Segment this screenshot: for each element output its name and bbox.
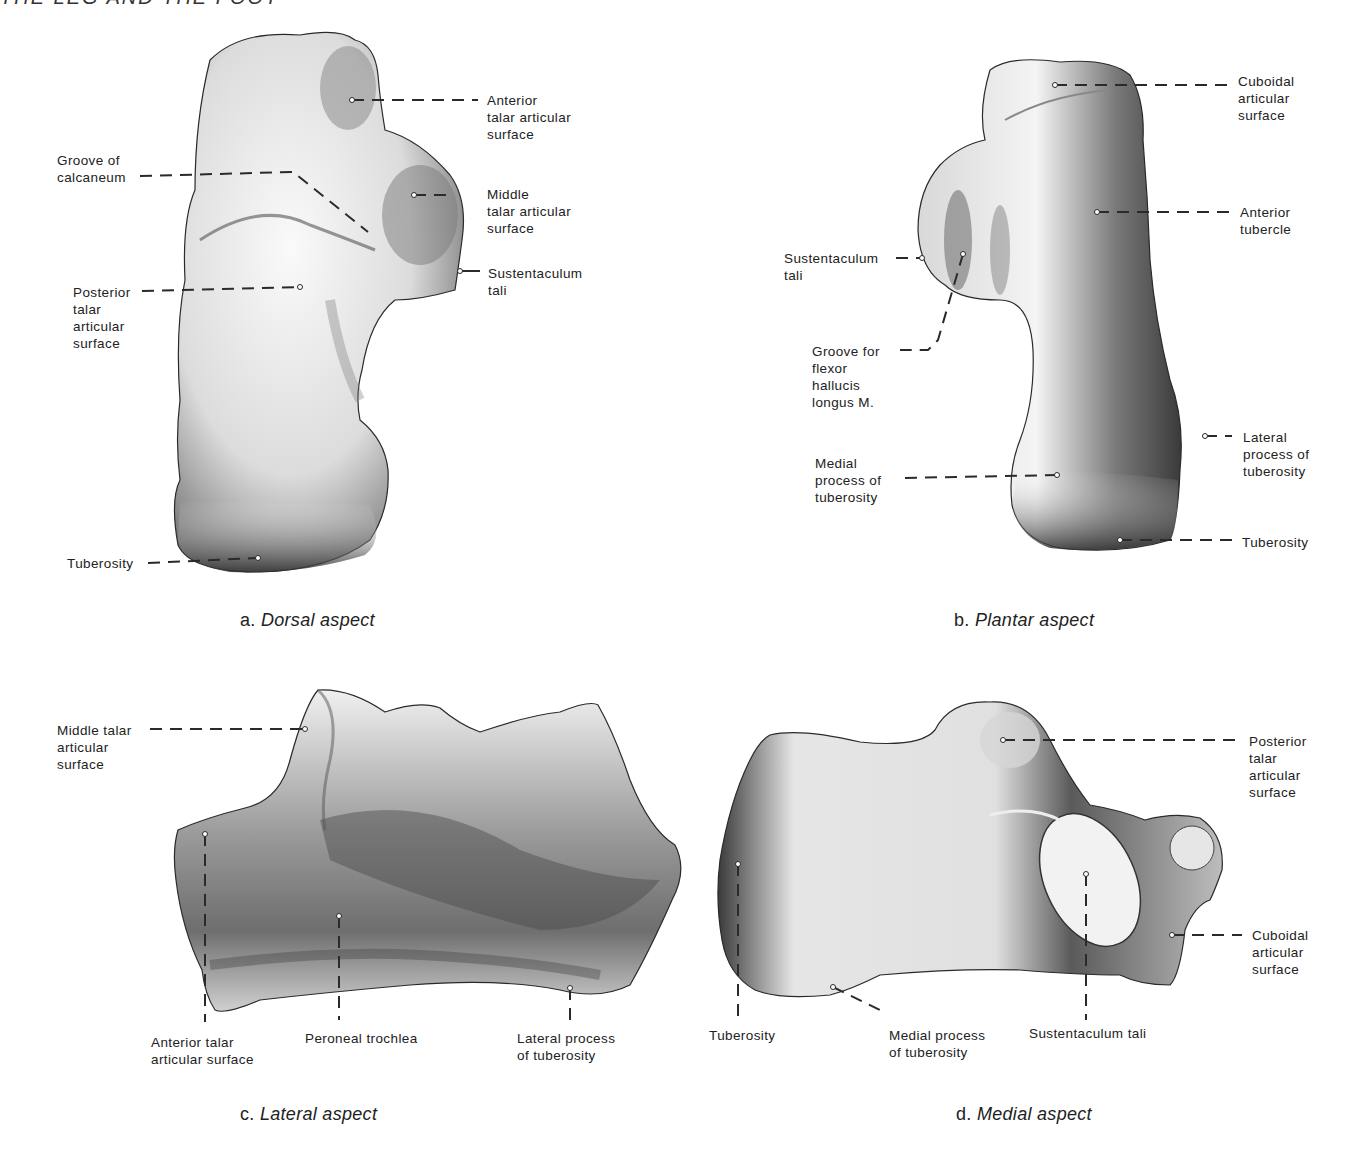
label-anterior-talar-articular-surface: Anterior talar articular surface xyxy=(487,92,571,143)
label-posterior-talar-articular-surface: Posterior talar articular surface xyxy=(73,284,131,352)
bone-dorsal-aspect xyxy=(174,32,463,572)
label-cuboidal-articular-surface: Cuboidal articular surface xyxy=(1252,927,1309,978)
caption-title: Lateral aspect xyxy=(260,1104,377,1124)
bone-lateral-aspect xyxy=(174,690,680,1011)
label-tuberosity: Tuberosity xyxy=(1242,534,1309,551)
bone-plantar-aspect xyxy=(918,60,1181,550)
label-sustentaculum-tali: Sustentaculum tali xyxy=(488,265,583,299)
caption-letter: d. xyxy=(956,1104,972,1124)
caption-dorsal-aspect: a. Dorsal aspect xyxy=(240,610,375,631)
label-cuboidal-articular-surface: Cuboidal articular surface xyxy=(1238,73,1295,124)
label-medial-process-of-tuberosity: Medial process of tuberosity xyxy=(815,455,881,506)
label-sustentaculum-tali: Sustentaculum tali xyxy=(784,250,879,284)
label-lateral-process-of-tuberosity: Lateral process of tuberosity xyxy=(517,1030,615,1064)
caption-plantar-aspect: b. Plantar aspect xyxy=(954,610,1094,631)
caption-letter: a. xyxy=(240,610,256,630)
label-anterior-talar-articular-surface: Anterior talar articular surface xyxy=(151,1034,254,1068)
caption-title: Medial aspect xyxy=(977,1104,1092,1124)
caption-letter: c. xyxy=(240,1104,255,1124)
label-medial-process-of-tuberosity: Medial process of tuberosity xyxy=(889,1027,985,1061)
label-middle-talar-articular-surface: Middle talar articular surface xyxy=(57,722,132,773)
bone-medial-aspect xyxy=(718,702,1222,997)
label-peroneal-trochlea: Peroneal trochlea xyxy=(305,1030,418,1047)
caption-title: Plantar aspect xyxy=(975,610,1094,630)
caption-letter: b. xyxy=(954,610,970,630)
label-anterior-tubercle: Anterior tubercle xyxy=(1240,204,1291,238)
label-groove-of-calcaneum: Groove of calcaneum xyxy=(57,152,126,186)
label-posterior-talar-articular-surface: Posterior talar articular surface xyxy=(1249,733,1307,801)
caption-lateral-aspect: c. Lateral aspect xyxy=(240,1104,377,1125)
caption-medial-aspect: d. Medial aspect xyxy=(956,1104,1092,1125)
caption-title: Dorsal aspect xyxy=(261,610,375,630)
label-middle-talar-articular-surface: Middle talar articular surface xyxy=(487,186,571,237)
label-tuberosity: Tuberosity xyxy=(67,555,134,572)
label-sustentaculum-tali: Sustentaculum tali xyxy=(1029,1025,1147,1042)
label-lateral-process-of-tuberosity: Lateral process of tuberosity xyxy=(1243,429,1309,480)
calcaneus-figure xyxy=(0,0,1365,1153)
label-tuberosity: Tuberosity xyxy=(709,1027,776,1044)
label-groove-for-flexor-hallucis-longus: Groove for flexor hallucis longus M. xyxy=(812,343,880,411)
